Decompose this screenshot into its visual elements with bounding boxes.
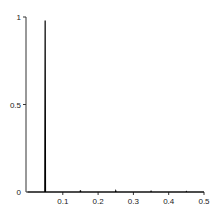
y-tick-label: 0 — [17, 188, 22, 197]
x-axis-ticks: 0.10.20.30.40.5 — [57, 192, 210, 206]
series-line-signal — [28, 21, 205, 193]
y-axis-ticks: 00.51 — [10, 13, 26, 197]
y-tick-label: 1 — [17, 13, 22, 22]
plot-area — [28, 21, 205, 193]
y-tick-label: 0.5 — [10, 101, 22, 110]
x-tick-label: 0.3 — [128, 197, 140, 206]
line-chart: 00.51 0.10.20.30.40.5 — [0, 0, 217, 208]
x-tick-label: 0.1 — [57, 197, 69, 206]
x-tick-label: 0.4 — [163, 197, 175, 206]
x-tick-label: 0.2 — [93, 197, 105, 206]
axes — [26, 17, 204, 192]
x-tick-label: 0.5 — [198, 197, 210, 206]
